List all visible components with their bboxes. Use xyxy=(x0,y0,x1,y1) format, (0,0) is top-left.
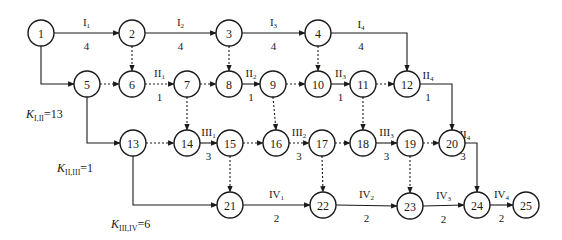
node-22: 22 xyxy=(310,192,336,218)
node-number: 7 xyxy=(184,78,190,92)
work-arrow-22-23 xyxy=(336,205,397,206)
task-label-I-4: I4 xyxy=(357,18,365,32)
node-19: 19 xyxy=(397,130,423,156)
dummy-arrow-17-22 xyxy=(322,156,323,192)
node-14: 14 xyxy=(174,130,200,156)
duration-label: 1 xyxy=(425,91,431,103)
work-arrow-5-13 xyxy=(87,97,120,143)
node-5: 5 xyxy=(74,71,100,97)
duration-label: 3 xyxy=(206,150,212,162)
task-label-II-2: II2 xyxy=(246,67,257,81)
node-20: 20 xyxy=(439,130,465,156)
node-number: 22 xyxy=(317,199,329,213)
work-arrow-20-24 xyxy=(465,143,477,192)
node-number: 9 xyxy=(270,78,276,92)
node-number: 8 xyxy=(226,78,232,92)
node-number: 3 xyxy=(226,27,232,41)
node-number: 11 xyxy=(357,78,369,92)
node-13: 13 xyxy=(120,130,146,156)
node-number: 25 xyxy=(520,199,532,213)
node-18: 18 xyxy=(350,130,376,156)
node-10: 10 xyxy=(305,71,331,97)
interval-label-k12: KI,II=13 xyxy=(25,107,63,123)
node-number: 24 xyxy=(471,199,483,213)
duration-label: 1 xyxy=(248,91,254,103)
duration-label: 1 xyxy=(157,91,163,103)
work-arrow-23-24 xyxy=(423,205,464,206)
edge-labels-layer: I14I24I34I44II11II21II31II41III13III23II… xyxy=(83,16,510,225)
duration-label: 3 xyxy=(296,150,302,162)
task-label-IV-3: IV3 xyxy=(436,189,452,203)
node-24: 24 xyxy=(464,192,490,218)
node-number: 16 xyxy=(270,137,282,151)
task-label-II-3: II3 xyxy=(335,67,346,81)
task-label-I-3: I3 xyxy=(270,16,278,30)
node-6: 6 xyxy=(119,71,145,97)
node-number: 19 xyxy=(404,137,416,151)
interval-labels-layer: KI,II=13KII,III=1KIII,IV=6 xyxy=(25,107,150,233)
node-23: 23 xyxy=(397,193,423,219)
duration-label: 2 xyxy=(364,212,370,224)
duration-label: 4 xyxy=(358,40,364,52)
work-arrow-4-12 xyxy=(331,33,407,71)
node-7: 7 xyxy=(174,71,200,97)
node-12: 12 xyxy=(394,71,420,97)
network-diagram: I14I24I34I44II11II21II31II41III13III23II… xyxy=(0,0,562,240)
node-8: 8 xyxy=(216,71,242,97)
node-number: 12 xyxy=(401,78,413,92)
interval-label-k34: KIII,IV=6 xyxy=(110,217,150,233)
node-number: 14 xyxy=(181,137,193,151)
task-label-IV-2: IV2 xyxy=(359,188,375,202)
node-number: 21 xyxy=(224,199,236,213)
duration-label: 2 xyxy=(274,212,280,224)
node-number: 17 xyxy=(316,137,328,151)
nodes-layer: 1234567891011121314151617181920212223242… xyxy=(28,20,539,219)
task-label-IV-1: IV1 xyxy=(269,188,285,202)
node-number: 4 xyxy=(315,27,321,41)
interval-label-k23: KII,III=1 xyxy=(56,161,93,177)
node-number: 18 xyxy=(357,137,369,151)
duration-label: 3 xyxy=(384,150,390,162)
duration-label: 2 xyxy=(499,212,505,224)
node-number: 6 xyxy=(129,78,135,92)
duration-label: 2 xyxy=(441,213,447,225)
node-number: 5 xyxy=(84,78,90,92)
node-number: 2 xyxy=(129,27,135,41)
node-11: 11 xyxy=(350,71,376,97)
node-number: 13 xyxy=(127,137,139,151)
node-number: 23 xyxy=(404,200,416,214)
edges-layer xyxy=(41,33,513,206)
task-label-I-1: I1 xyxy=(83,16,91,30)
node-25: 25 xyxy=(513,192,539,218)
node-16: 16 xyxy=(263,130,289,156)
node-2: 2 xyxy=(119,20,145,46)
node-21: 21 xyxy=(217,192,243,218)
node-9: 9 xyxy=(260,71,286,97)
node-number: 20 xyxy=(446,137,458,151)
task-label-III-2: III2 xyxy=(292,126,307,140)
work-arrow-13-21 xyxy=(133,156,217,205)
task-label-II-4: II4 xyxy=(423,69,434,83)
node-number: 10 xyxy=(312,78,324,92)
node-1: 1 xyxy=(28,20,54,46)
duration-label: 1 xyxy=(338,91,344,103)
task-label-IV-4: IV4 xyxy=(494,188,510,202)
duration-label: 4 xyxy=(178,40,184,52)
task-label-II-1: II1 xyxy=(154,67,165,81)
dummy-arrow-9-16 xyxy=(273,97,276,130)
node-15: 15 xyxy=(217,130,243,156)
duration-label: 4 xyxy=(84,40,90,52)
node-number: 15 xyxy=(224,137,236,151)
work-arrow-1-5 xyxy=(41,46,74,84)
node-3: 3 xyxy=(216,20,242,46)
task-label-III-1: III1 xyxy=(201,126,216,140)
task-label-III-3: III3 xyxy=(379,126,394,140)
duration-label: 4 xyxy=(271,40,277,52)
task-label-I-2: I2 xyxy=(177,16,185,30)
node-17: 17 xyxy=(309,130,335,156)
node-4: 4 xyxy=(305,20,331,46)
node-number: 1 xyxy=(38,27,44,41)
